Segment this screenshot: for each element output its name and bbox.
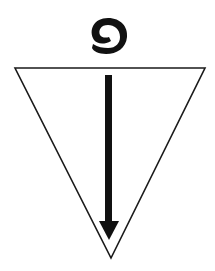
spiral-symbol-icon (0, 0, 215, 60)
arrow-down-icon (99, 221, 119, 240)
sign-graphic (0, 0, 215, 271)
arrow-shaft (105, 75, 112, 225)
